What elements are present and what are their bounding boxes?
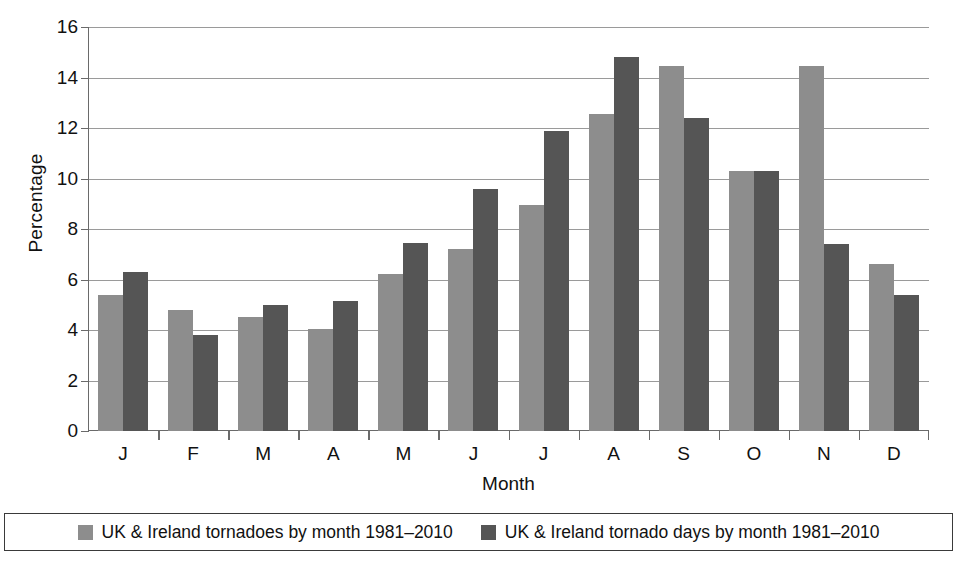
bar bbox=[894, 295, 919, 431]
bar bbox=[729, 171, 754, 431]
x-axis-tick-label: S bbox=[649, 443, 719, 465]
bar bbox=[659, 66, 684, 431]
x-axis-tick bbox=[579, 431, 581, 440]
bar bbox=[869, 264, 894, 431]
bar-group bbox=[158, 27, 228, 431]
bar-group bbox=[859, 27, 929, 431]
x-axis-tick-label: M bbox=[368, 443, 438, 465]
bar bbox=[123, 272, 148, 431]
x-axis-tick-label: D bbox=[859, 443, 929, 465]
x-axis-tick-label: F bbox=[158, 443, 228, 465]
x-axis-tick bbox=[228, 431, 230, 440]
x-axis-title: Month bbox=[88, 473, 929, 495]
bar bbox=[754, 171, 779, 431]
chart-legend: UK & Ireland tornadoes by month 1981–201… bbox=[4, 513, 953, 551]
bar-group bbox=[719, 27, 789, 431]
bar bbox=[448, 249, 473, 431]
x-axis-tick bbox=[438, 431, 440, 440]
x-axis-tick bbox=[719, 431, 721, 440]
bar bbox=[799, 66, 824, 431]
legend-entry: UK & Ireland tornado days by month 1981–… bbox=[481, 522, 880, 543]
bar-group bbox=[228, 27, 298, 431]
x-axis-tick-label: O bbox=[719, 443, 789, 465]
bar bbox=[403, 243, 428, 431]
bar-group bbox=[298, 27, 368, 431]
y-axis-tick-label: 6 bbox=[4, 269, 78, 291]
y-axis-tick-label: 10 bbox=[4, 168, 78, 190]
legend-swatch-icon bbox=[481, 525, 496, 540]
bar-group bbox=[438, 27, 508, 431]
x-axis-tick bbox=[368, 431, 370, 440]
x-axis-tick-label: J bbox=[438, 443, 508, 465]
legend-label: UK & Ireland tornadoes by month 1981–201… bbox=[102, 522, 453, 543]
bars-layer bbox=[88, 27, 929, 431]
y-axis-tick-label: 14 bbox=[4, 67, 78, 89]
bar bbox=[589, 114, 614, 431]
bar bbox=[614, 57, 639, 431]
bar-group bbox=[649, 27, 719, 431]
x-axis-tick bbox=[649, 431, 651, 440]
y-axis-tick-label: 2 bbox=[4, 370, 78, 392]
x-axis-tick bbox=[859, 431, 861, 440]
bar bbox=[308, 329, 333, 431]
bar-group bbox=[88, 27, 158, 431]
bar-group bbox=[789, 27, 859, 431]
bar bbox=[333, 301, 358, 431]
x-axis-tick bbox=[298, 431, 300, 440]
y-axis-tick-label: 8 bbox=[4, 218, 78, 240]
x-axis-tick-label: A bbox=[298, 443, 368, 465]
legend-label: UK & Ireland tornado days by month 1981–… bbox=[505, 522, 880, 543]
bar bbox=[378, 274, 403, 431]
y-axis-tick-label: 12 bbox=[4, 117, 78, 139]
x-axis-tick-labels: JFMAMJJASOND bbox=[88, 443, 929, 473]
bar bbox=[193, 335, 218, 431]
bar bbox=[684, 118, 709, 431]
bar-group bbox=[509, 27, 579, 431]
x-axis-tick-label: A bbox=[579, 443, 649, 465]
y-axis-tick-label: 16 bbox=[4, 16, 78, 38]
bar bbox=[824, 244, 849, 431]
bar bbox=[263, 305, 288, 431]
y-axis-tick-label: 0 bbox=[4, 420, 78, 442]
x-axis-tick-label: M bbox=[228, 443, 298, 465]
x-axis-tick bbox=[158, 431, 160, 440]
x-axis-tick bbox=[928, 431, 930, 440]
x-axis-tick-label: N bbox=[789, 443, 859, 465]
bar-group bbox=[368, 27, 438, 431]
x-axis-tick bbox=[509, 431, 511, 440]
bar bbox=[98, 295, 123, 431]
bar bbox=[238, 317, 263, 431]
bar-chart: Percentage 0246810121416 JFMAMJJASOND Mo… bbox=[0, 0, 957, 575]
legend-swatch-icon bbox=[78, 525, 93, 540]
bar bbox=[544, 131, 569, 431]
legend-entry: UK & Ireland tornadoes by month 1981–201… bbox=[78, 522, 453, 543]
y-axis-tick-label: 4 bbox=[4, 319, 78, 341]
bar bbox=[519, 205, 544, 431]
x-axis-tick bbox=[789, 431, 791, 440]
bar bbox=[473, 189, 498, 431]
y-axis-tick-labels: 0246810121416 bbox=[0, 0, 78, 575]
bar bbox=[168, 310, 193, 431]
x-axis-tick-label: J bbox=[509, 443, 579, 465]
bar-group bbox=[579, 27, 649, 431]
x-axis-tick-label: J bbox=[88, 443, 158, 465]
x-axis-ticks bbox=[88, 431, 929, 443]
